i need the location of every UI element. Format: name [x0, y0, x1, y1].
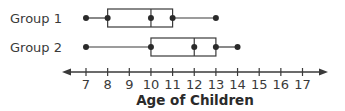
x-tick-label: 13: [208, 77, 225, 92]
x-tick-label: 11: [164, 77, 181, 92]
x-tick-label: 17: [294, 77, 311, 92]
data-point-dot: [83, 15, 89, 21]
x-tick-label: 14: [229, 77, 246, 92]
group-label: Group 2: [10, 40, 62, 55]
x-tick-label: 16: [273, 77, 290, 92]
group-label: Group 1: [10, 11, 62, 26]
x-tick-label: 12: [186, 77, 203, 92]
data-point-dot: [83, 44, 89, 50]
x-tick-label: 9: [125, 77, 133, 92]
box: [151, 38, 216, 56]
x-tick-label: 15: [251, 77, 268, 92]
data-point-dot: [213, 44, 219, 50]
data-point-dot: [170, 15, 176, 21]
box-plot-chart: Group 1Group 27891011121314151617Age of …: [0, 0, 345, 111]
data-point-dot: [213, 15, 219, 21]
x-tick-label: 7: [82, 77, 90, 92]
data-point-dot: [105, 15, 111, 21]
x-axis-title: Age of Children: [136, 92, 254, 108]
data-point-dot: [191, 44, 197, 50]
data-point-dot: [235, 44, 241, 50]
arrow-left-icon: [62, 69, 71, 76]
data-point-dot: [148, 44, 154, 50]
box: [108, 9, 173, 27]
arrow-right-icon: [319, 69, 328, 76]
x-tick-label: 10: [143, 77, 160, 92]
x-tick-label: 8: [104, 77, 112, 92]
data-point-dot: [148, 15, 154, 21]
